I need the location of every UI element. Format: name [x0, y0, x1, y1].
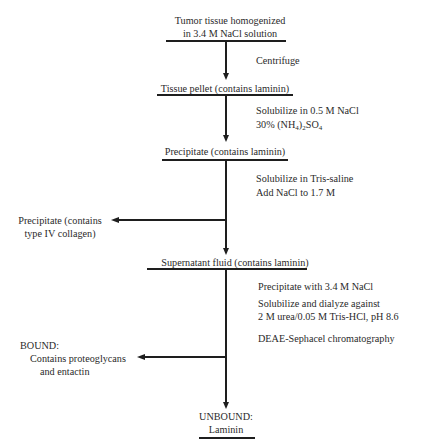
arrow-left-icon [111, 217, 119, 223]
branch-line-bound [144, 356, 226, 358]
precipitate-laminin-label: Precipitate (contains laminin) [150, 145, 300, 158]
precipitate-collagen-line1: Precipitate (contains [10, 214, 110, 227]
step-urea-tris: 2 M urea/0.05 M Tris-HCl, pH 8.6 [258, 310, 399, 323]
arrow-down-icon [223, 135, 229, 142]
unbound-underline [199, 437, 255, 439]
arrow-down-icon [223, 73, 229, 80]
unbound-laminin: Laminin [186, 423, 266, 436]
arrow-down-icon [223, 402, 229, 409]
flow-line-1 [225, 41, 227, 76]
start-node-line2: in 3.4 M NaCl solution [150, 27, 310, 40]
formula-subscript: 4 [319, 124, 323, 132]
arrow-left-icon [137, 354, 145, 360]
step-deae-chromatography: DEAE-Sephacel chromatography [258, 332, 395, 345]
step-solubilize-nacl: Solubilize in 0.5 M NaCl [256, 104, 359, 117]
step-precipitate-nacl: Precipitate with 3.4 M NaCl [258, 280, 373, 293]
supernatant-underline [147, 268, 307, 270]
step-solubilize-tris: Solubilize in Tris-saline [256, 172, 353, 185]
step-centrifuge: Centrifuge [256, 54, 300, 67]
precipitate-collagen-line2: type IV collagen) [10, 227, 110, 240]
arrow-down-icon [223, 248, 229, 255]
step-add-nacl: Add NaCl to 1.7 M [256, 186, 335, 199]
bound-line3: and entactin [40, 365, 90, 378]
flow-line-3 [225, 160, 227, 251]
formula-part: SO [306, 119, 319, 130]
bound-line2: Contains proteoglycans [30, 352, 126, 365]
formula-part: 30% (NH [256, 119, 295, 130]
flow-line-4 [225, 269, 227, 405]
flow-line-2 [225, 95, 227, 138]
branch-line-collagen [118, 219, 226, 221]
bound-heading: BOUND: [20, 339, 59, 352]
step-ammonium-sulfate: 30% (NH4)2SO4 [256, 118, 322, 131]
step-solubilize-dialyze: Solubilize and dialyze against [258, 297, 380, 310]
unbound-heading: UNBOUND: [186, 410, 266, 423]
start-node-line1: Tumor tissue homogenized [150, 14, 310, 27]
